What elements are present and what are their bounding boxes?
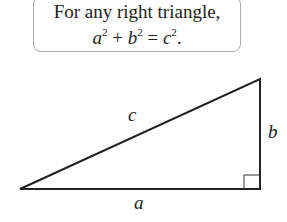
right-angle-marker <box>244 175 260 189</box>
label-horizontal-leg: a <box>134 193 144 213</box>
label-hypotenuse: c <box>128 105 136 125</box>
right-triangle <box>0 0 287 222</box>
label-vertical-leg: b <box>268 122 278 142</box>
